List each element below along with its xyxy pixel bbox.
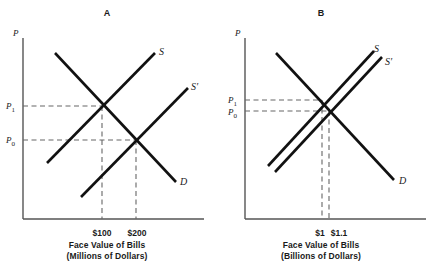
x-tick-label-b-0: $1 [315, 228, 325, 238]
y-axis-label-a: P [12, 28, 19, 38]
x-tick-label-a-0: $100 [93, 228, 112, 238]
curve-label-s-b: S [374, 43, 379, 54]
x-tick-label-a-1: $200 [128, 228, 147, 238]
demand-curve-b [276, 53, 394, 180]
x-tick-label-b-1: $1.1 [331, 228, 348, 238]
curve-label-d-b: D [398, 175, 407, 186]
price-label-p1-b: P1 [227, 95, 238, 108]
curve-label-s-prime-b: S′ [385, 56, 393, 67]
supply-curve-s-prime-a [81, 88, 188, 197]
supply-curve-s-b [268, 51, 374, 166]
panel-b: B P P1 P [214, 0, 428, 278]
curve-label-s-prime-a: S′ [191, 81, 199, 92]
price-label-p1-a: P1 [5, 101, 16, 114]
panel-a: A P P1 P [0, 0, 214, 278]
panel-a-caption-line2: (Millions of Dollars) [0, 251, 214, 262]
price-label-p0-b: P0 [227, 107, 238, 120]
panel-b-caption-line2: (Billions of Dollars) [214, 251, 428, 262]
curve-label-d-a: D [179, 176, 188, 187]
panel-b-caption-line1: Face Value of Bills [214, 240, 428, 251]
y-axis-label-b: P [234, 28, 241, 38]
price-label-p0-a: P0 [5, 135, 16, 148]
panel-a-plot: P P1 P0 S S′ D $100 $200 [0, 0, 214, 278]
panel-b-plot: P P1 P0 S S′ D $1 $1.1 [214, 0, 428, 278]
panel-a-caption-line1: Face Value of Bills [0, 240, 214, 251]
supply-demand-figure: A P P1 P [0, 0, 428, 278]
supply-curve-s-a [47, 53, 155, 163]
curve-label-s-a: S [159, 46, 164, 57]
